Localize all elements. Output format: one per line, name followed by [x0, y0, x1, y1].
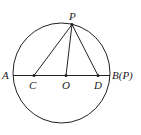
label-O: O: [62, 79, 70, 91]
label-A: A: [1, 69, 9, 81]
point-D: [97, 74, 100, 77]
label-B: B(P): [112, 69, 133, 82]
diagram-canvas: P A C O D B(P): [0, 0, 141, 135]
point-C: [33, 74, 36, 77]
label-P: P: [68, 10, 76, 22]
geometry-diagram: P A C O D B(P): [0, 0, 141, 135]
point-P: [71, 23, 74, 26]
segment-PD: [72, 25, 98, 76]
segment-PC: [34, 25, 72, 76]
point-O: [65, 74, 68, 77]
label-D: D: [93, 79, 102, 91]
label-C: C: [29, 79, 37, 91]
